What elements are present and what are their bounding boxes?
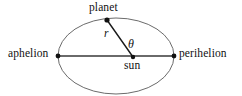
aphelion-point [56,54,61,59]
aphelion-label: aphelion [8,48,48,60]
angle-theta-label: θ [128,38,134,50]
planet-point [104,17,109,22]
perihelion-label: perihelion [179,48,227,60]
orbit-diagram: aphelion perihelion planet sun r θ [0,0,242,96]
perihelion-point [172,54,177,59]
radius-label: r [104,28,109,40]
planet-label: planet [89,2,118,14]
sun-label: sun [124,60,140,72]
